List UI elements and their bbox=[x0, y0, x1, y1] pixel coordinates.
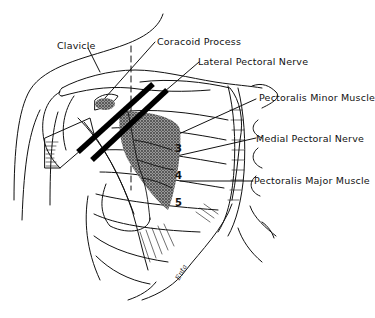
costal-margin bbox=[142, 204, 232, 300]
label-clavicle: Clavicle bbox=[57, 41, 96, 51]
rib-number-3: 3 bbox=[175, 144, 182, 154]
leader-clavicle bbox=[88, 48, 100, 72]
rib-number-5: 5 bbox=[175, 198, 182, 208]
label-medial-pectoral-nerve: Medial Pectoral Nerve bbox=[256, 134, 364, 144]
label-lateral-pectoral-nerve: Lateral Pectoral Nerve bbox=[198, 57, 308, 67]
sternum-left bbox=[218, 86, 235, 232]
rib-9 bbox=[96, 256, 150, 284]
coracoid-shaded bbox=[95, 98, 115, 110]
label-pectoralis-minor-muscle: Pectoralis Minor Muscle bbox=[259, 93, 375, 103]
clavicle-shape bbox=[62, 70, 262, 88]
arm-outer-line bbox=[22, 110, 40, 220]
rib-number-4: 4 bbox=[175, 171, 182, 181]
label-pectoralis-major-muscle: Pectoralis Major Muscle bbox=[254, 176, 370, 186]
label-coracoid-process: Coracoid Process bbox=[157, 37, 241, 47]
rib-8 bbox=[94, 236, 168, 262]
arm-inner-line bbox=[50, 112, 58, 205]
rib-7 bbox=[94, 214, 200, 232]
